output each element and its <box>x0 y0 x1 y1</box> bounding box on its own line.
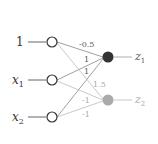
weight-x1-z1: 1 <box>84 55 89 64</box>
output-label-z2: z2 <box>134 93 145 108</box>
input-node-bias <box>47 37 57 47</box>
input-node-x1 <box>47 75 57 85</box>
output-label-z1: z1 <box>134 50 145 65</box>
network-svg: 1 x1 x2 z1 z2 -0.5 1 1 1.5 -1 -1 <box>0 0 158 144</box>
input-label-bias: 1 <box>16 35 24 49</box>
input-label-x1: x1 <box>12 73 24 89</box>
weight-bias-z2: 1.5 <box>93 80 106 89</box>
input-label-x2: x2 <box>12 110 24 126</box>
output-node-z2 <box>103 95 114 106</box>
weight-bias-z1: -0.5 <box>79 40 94 49</box>
neural-network-diagram: 1 x1 x2 z1 z2 -0.5 1 1 1.5 -1 -1 <box>0 0 158 144</box>
weight-x2-z2: -1 <box>82 110 90 119</box>
output-node-z1 <box>103 52 114 63</box>
input-node-x2 <box>47 112 57 122</box>
weight-x1-z2: -1 <box>82 96 90 105</box>
weight-x2-z1: 1 <box>84 67 89 76</box>
